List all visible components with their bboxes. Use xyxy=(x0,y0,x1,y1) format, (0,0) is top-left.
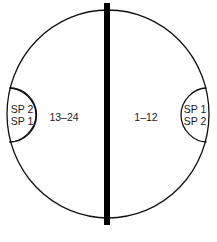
right-region-label: 1–12 xyxy=(134,111,158,123)
left-cap-line-1: SP 2 xyxy=(11,103,34,115)
left-region-label: 13–24 xyxy=(49,111,78,123)
left-cap-line-2: SP 1 xyxy=(11,115,34,127)
right-cap-line-2: SP 2 xyxy=(184,115,207,127)
right-cap-line-1: SP 1 xyxy=(184,103,207,115)
divider-bar xyxy=(104,3,110,225)
diagram-canvas: SP 2 SP 1 13–24 1–12 SP 1 SP 2 xyxy=(0,0,217,242)
